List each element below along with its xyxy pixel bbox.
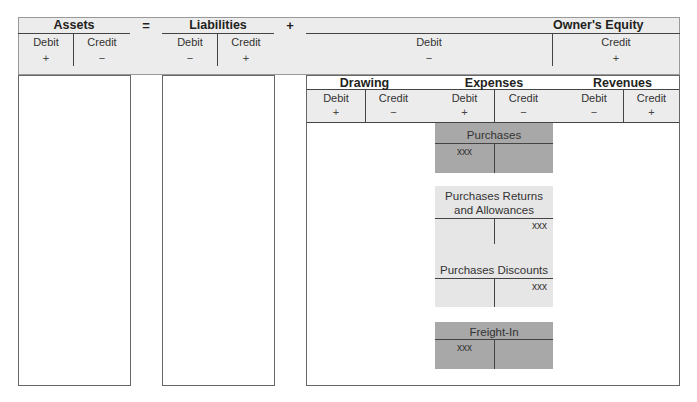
owners-equity-title-underline bbox=[306, 33, 680, 34]
t-account-purchases: Purchases xxx bbox=[435, 123, 553, 173]
expenses-debit-label: Debit bbox=[435, 92, 494, 104]
revenues-t-divider bbox=[623, 90, 624, 122]
t-account-name-line1: Purchases Returns bbox=[435, 189, 553, 203]
expenses-title: Expenses bbox=[435, 76, 553, 90]
assets-debit-sign: + bbox=[18, 52, 74, 64]
expenses-debit-sign: + bbox=[435, 106, 494, 118]
liabilities-credit-sign: + bbox=[218, 52, 274, 64]
liabilities-credit-label: Credit bbox=[218, 36, 274, 48]
drawing-t-divider bbox=[365, 90, 366, 122]
t-account-divider bbox=[494, 278, 495, 307]
drawing-credit-label: Credit bbox=[365, 92, 422, 104]
t-account-divider bbox=[494, 218, 495, 244]
revenues-credit-label: Credit bbox=[623, 92, 680, 104]
plus-sign: + bbox=[274, 18, 306, 33]
t-account-debit-amount: xxx bbox=[457, 342, 472, 353]
assets-title: Assets bbox=[18, 18, 130, 32]
t-account-name: Purchases Discounts bbox=[435, 263, 553, 277]
revenues-title: Revenues bbox=[565, 76, 680, 90]
t-account-name: Purchases bbox=[435, 128, 553, 142]
t-account-freight-in: Freight-In xxx bbox=[435, 322, 553, 369]
assets-credit-sign: − bbox=[74, 52, 130, 64]
liabilities-title: Liabilities bbox=[162, 18, 274, 32]
t-account-name: Freight-In bbox=[435, 325, 553, 339]
drawing-debit-label: Debit bbox=[307, 92, 365, 104]
owners-equity-t-divider bbox=[552, 33, 553, 66]
t-account-purchases-discounts: Purchases Discounts xxx bbox=[435, 244, 553, 307]
drawing-debit-sign: + bbox=[307, 106, 365, 118]
liabilities-debit-sign: − bbox=[162, 52, 218, 64]
owners-equity-credit-label: Credit bbox=[552, 36, 680, 48]
t-account-name-line2: and Allowances bbox=[435, 203, 553, 217]
owners-equity-credit-sign: + bbox=[552, 52, 680, 64]
t-account-credit-amount: xxx bbox=[532, 220, 547, 231]
expenses-credit-sign: − bbox=[494, 106, 553, 118]
t-account-credit-amount: xxx bbox=[532, 281, 547, 292]
liabilities-debit-label: Debit bbox=[162, 36, 218, 48]
liabilities-title-underline bbox=[162, 33, 274, 34]
revenues-debit-label: Debit bbox=[565, 92, 623, 104]
t-account-divider bbox=[494, 143, 495, 173]
t-account-debit-amount: xxx bbox=[457, 146, 472, 157]
liabilities-body bbox=[162, 75, 275, 386]
drawing-credit-sign: − bbox=[365, 106, 422, 118]
equals-sign: = bbox=[130, 18, 162, 33]
assets-t-divider bbox=[73, 33, 74, 66]
owners-equity-debit-sign: − bbox=[306, 52, 552, 64]
assets-title-underline bbox=[18, 33, 130, 34]
t-account-purchases-returns: Purchases Returns and Allowances xxx bbox=[435, 186, 553, 244]
assets-body bbox=[18, 75, 131, 386]
assets-debit-label: Debit bbox=[18, 36, 74, 48]
revenues-debit-sign: − bbox=[565, 106, 623, 118]
t-account-divider bbox=[494, 339, 495, 369]
revenues-credit-sign: + bbox=[623, 106, 680, 118]
drawing-title: Drawing bbox=[307, 76, 422, 90]
owners-equity-debit-label: Debit bbox=[306, 36, 552, 48]
assets-credit-label: Credit bbox=[74, 36, 130, 48]
liabilities-t-divider bbox=[217, 33, 218, 66]
expenses-t-divider bbox=[494, 90, 495, 122]
expenses-credit-label: Credit bbox=[494, 92, 553, 104]
